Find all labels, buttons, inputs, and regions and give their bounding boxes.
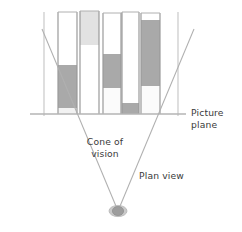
building-4-band-1 bbox=[122, 103, 139, 114]
building-5-band-2 bbox=[141, 86, 160, 114]
building-4 bbox=[122, 12, 139, 114]
building-3 bbox=[103, 13, 121, 114]
building-2 bbox=[80, 11, 99, 114]
building-5-band-1 bbox=[141, 20, 160, 86]
buildings-group bbox=[58, 11, 160, 114]
building-4-band-0 bbox=[122, 12, 139, 103]
diagram-canvas bbox=[0, 0, 242, 232]
building-5-band-0 bbox=[141, 13, 160, 20]
building-2-band-1 bbox=[80, 45, 99, 114]
building-2-band-0 bbox=[80, 11, 99, 45]
building-1-band-2 bbox=[58, 108, 77, 114]
perspective-plan-diagram: Picture plane Cone of vision Plan view bbox=[0, 0, 242, 232]
viewer-inner-ellipse bbox=[112, 206, 123, 215]
building-1 bbox=[58, 12, 77, 114]
building-3-band-1 bbox=[103, 54, 121, 88]
building-3-band-2 bbox=[103, 88, 121, 114]
viewer-station-point bbox=[109, 205, 127, 216]
building-1-band-0 bbox=[58, 12, 77, 65]
building-5 bbox=[141, 13, 160, 114]
building-3-band-0 bbox=[103, 13, 121, 54]
building-1-band-1 bbox=[58, 65, 77, 108]
